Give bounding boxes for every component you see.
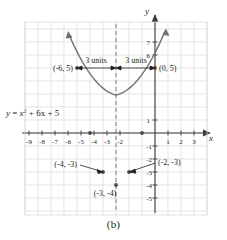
parabola-curve <box>69 32 165 95</box>
y-tick-label: -2 <box>146 156 152 164</box>
point-vertex-neg3-neg4 <box>114 183 118 187</box>
x-tick-label: -3 <box>104 138 110 146</box>
x-tick-label: -5 <box>78 138 84 146</box>
label-point-neg2-neg3: (-2, -3) <box>158 158 181 167</box>
y-tick-label: 7 <box>147 39 151 47</box>
figure-caption: (b) <box>0 218 227 230</box>
x-tick-label: -9 <box>26 138 32 146</box>
y-tick-label: -1 <box>146 143 152 151</box>
equation-eq: = <box>10 108 20 118</box>
y-tick-label: -5 <box>146 195 152 203</box>
label-left-3-units: 3 units <box>85 56 107 65</box>
x-tick-label: 3 <box>192 138 196 146</box>
label-point-neg6-5: (-6, 5) <box>53 64 73 73</box>
point-neg1-0 <box>140 131 144 135</box>
y-tick-label: 1 <box>147 117 151 125</box>
equation-rest: + 6x + 5 <box>27 108 60 118</box>
right-branch-arrow <box>163 29 170 36</box>
y-axis-arrow <box>152 14 159 22</box>
label-point-0-5: (0, 5) <box>159 64 177 73</box>
x-tick-label: -8 <box>39 138 45 146</box>
x-tick-labels: -9 -8 -7 -6 -5 -4 -3 -2 1 2 3 <box>26 138 196 146</box>
x-tick-label: -4 <box>91 138 97 146</box>
y-axis-letter: y <box>144 6 149 16</box>
x-tick-label: 1 <box>166 138 170 146</box>
x-axis-letter: x <box>208 133 213 143</box>
parabola-figure: x y -9 -8 -7 -6 -5 -4 -3 -2 1 2 3 7 6 1 … <box>0 0 227 240</box>
y-tick-label: 6 <box>147 52 151 60</box>
y-tick-label: -3 <box>146 169 152 177</box>
x-tick-label: -7 <box>52 138 58 146</box>
point-neg5-0 <box>88 131 92 135</box>
x-tick-label: 2 <box>179 138 183 146</box>
left-branch-arrow <box>66 31 73 38</box>
equation-label: y = x2 + 6x + 5 <box>5 108 60 119</box>
label-point-neg4-neg3: (-4, -3) <box>54 160 77 169</box>
y-tick-label: -4 <box>146 182 152 190</box>
x-tick-label: -2 <box>117 138 123 146</box>
label-right-3-units: 3 units <box>125 56 147 65</box>
label-vertex: (-3, -4) <box>94 189 117 198</box>
x-tick-label: -6 <box>65 138 71 146</box>
right-span-arrow-start <box>116 66 121 70</box>
curve-arrowheads <box>66 29 170 39</box>
